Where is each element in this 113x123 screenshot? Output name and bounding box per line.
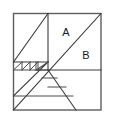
region-label-a: A [62, 26, 70, 38]
figure-root: A B [0, 0, 113, 123]
geometry-diagram: A B [0, 0, 113, 123]
region-label-b: B [82, 49, 89, 61]
